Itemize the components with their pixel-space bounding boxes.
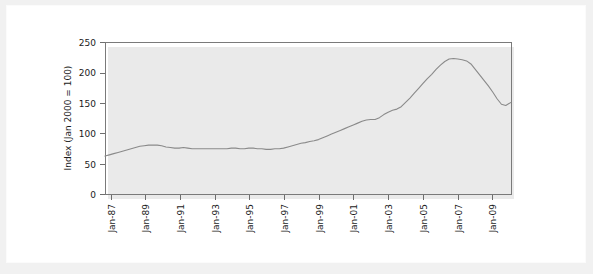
x-tick-label-jan-07: Jan-07 — [454, 204, 464, 234]
x-tick-label-jan-01: Jan-01 — [349, 204, 359, 234]
y-tick-label-100: 100 — [79, 129, 96, 139]
x-tick-label-jan-93: Jan-93 — [211, 204, 221, 234]
x-tick-label-jan-05: Jan-05 — [419, 204, 429, 234]
y-tick-label-250: 250 — [79, 38, 96, 48]
x-axis: Jan-87 Jan-89 Jan-91 Jan-93 Jan-95 Jan-9… — [107, 195, 499, 234]
house-price-index-line-chart: 250 200 150 100 50 0 Index (Jan 2000 = 1… — [7, 6, 585, 262]
figure-root: 250 200 150 100 50 0 Index (Jan 2000 = 1… — [0, 0, 593, 274]
x-tick-label-jan-95: Jan-95 — [245, 204, 255, 234]
x-tick-label-jan-03: Jan-03 — [384, 204, 394, 234]
x-tick-label-jan-87: Jan-87 — [107, 204, 117, 234]
x-tick-label-jan-99: Jan-99 — [315, 204, 325, 234]
x-tick-label-jan-09: Jan-09 — [488, 204, 498, 234]
x-tick-label-jan-91: Jan-91 — [176, 204, 186, 234]
x-tick-label-jan-97: Jan-97 — [280, 204, 290, 234]
y-tick-label-0: 0 — [90, 190, 96, 200]
x-tick-label-jan-89: Jan-89 — [141, 204, 151, 234]
figure-card: 250 200 150 100 50 0 Index (Jan 2000 = 1… — [7, 6, 585, 262]
y-tick-label-200: 200 — [79, 68, 96, 78]
y-axis: 250 200 150 100 50 0 — [79, 38, 105, 200]
y-axis-title: Index (Jan 2000 = 100) — [63, 66, 73, 171]
y-tick-label-50: 50 — [85, 160, 97, 170]
y-tick-label-150: 150 — [79, 99, 96, 109]
plot-frame-shadow — [108, 47, 514, 199]
